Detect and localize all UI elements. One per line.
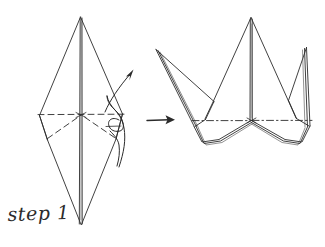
transition-arrow-shaft: [147, 120, 169, 121]
petal-fold-arrow-tick: [106, 126, 121, 127]
origami-step-diagram: step 1: [0, 0, 325, 247]
step-caption: step 1: [7, 201, 70, 225]
